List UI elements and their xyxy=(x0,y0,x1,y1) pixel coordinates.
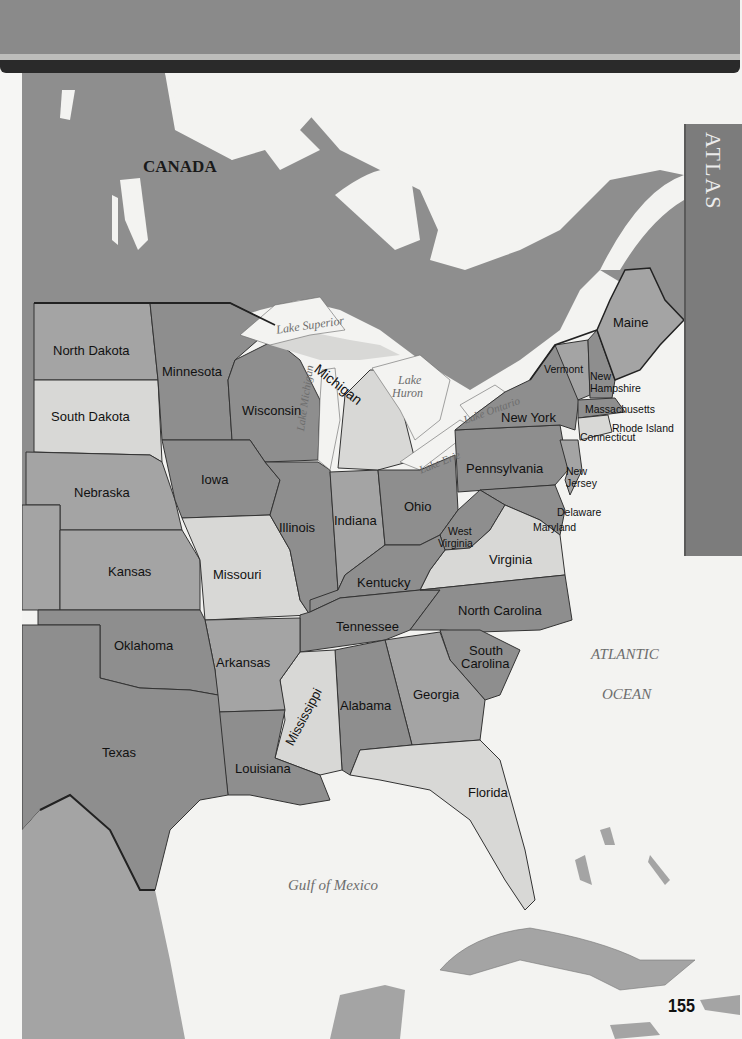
state-label-massachusetts: Massachusetts xyxy=(585,404,655,415)
eastern-us-map xyxy=(22,73,740,1039)
state-label-new-york: New York xyxy=(501,411,556,425)
state-label-west-virginia-line1: West xyxy=(448,526,472,537)
state-label-south-dakota: South Dakota xyxy=(51,410,130,424)
state-label-west-virginia-line2: Virginia xyxy=(438,538,473,549)
state-label-louisiana: Louisiana xyxy=(235,762,291,776)
state-label-florida: Florida xyxy=(468,786,508,800)
water-label-ocean: OCEAN xyxy=(602,686,651,703)
state-label-oklahoma: Oklahoma xyxy=(114,639,173,653)
state-label-kansas: Kansas xyxy=(108,565,151,579)
state-label-new-jersey-line2: Jersey xyxy=(566,478,597,489)
state-label-minnesota: Minnesota xyxy=(162,365,222,379)
state-label-new-hampshire-line2: Hampshire xyxy=(590,383,641,394)
page-header-band xyxy=(0,0,740,54)
state-label-indiana: Indiana xyxy=(334,514,377,528)
state-label-maryland: Maryland xyxy=(533,522,576,533)
state-label-missouri: Missouri xyxy=(213,568,261,582)
state-label-ohio: Ohio xyxy=(404,500,431,514)
state-label-kentucky: Kentucky xyxy=(357,576,410,590)
water-label-gulf-of-mexico: Gulf of Mexico xyxy=(288,877,378,894)
state-label-pennsylvania: Pennsylvania xyxy=(466,462,543,476)
page-margin xyxy=(0,73,22,1039)
state-label-north-carolina: North Carolina xyxy=(458,604,542,618)
state-label-vermont: Vermont xyxy=(544,364,583,375)
state-label-wisconsin: Wisconsin xyxy=(242,404,301,418)
state-label-new-hampshire-line1: New xyxy=(590,371,611,382)
state-label-connecticut: Connecticut xyxy=(580,432,635,443)
water-label-lake-huron-line2: Huron xyxy=(392,386,423,401)
state-label-georgia: Georgia xyxy=(413,688,459,702)
atlas-tab-label: ATLAS xyxy=(700,132,726,210)
state-label-texas: Texas xyxy=(102,746,136,760)
state-label-maine: Maine xyxy=(613,316,648,330)
header-divider-dark xyxy=(0,60,740,73)
state-label-iowa: Iowa xyxy=(201,473,228,487)
water-label-atlantic: ATLANTIC xyxy=(591,646,659,663)
state-label-arkansas: Arkansas xyxy=(216,656,270,670)
state-label-south-carolina-line2: Carolina xyxy=(461,657,509,671)
country-label-canada: CANADA xyxy=(143,157,217,177)
state-label-virginia: Virginia xyxy=(489,553,532,567)
state-label-new-jersey-line1: New xyxy=(566,466,587,477)
state-label-nebraska: Nebraska xyxy=(74,486,130,500)
state-label-delaware: Delaware xyxy=(557,507,601,518)
state-label-tennessee: Tennessee xyxy=(336,620,399,634)
state-label-illinois: Illinois xyxy=(279,521,315,535)
state-label-north-dakota: North Dakota xyxy=(53,344,130,358)
atlas-section-tab[interactable]: ATLAS xyxy=(684,124,742,556)
state-label-alabama: Alabama xyxy=(340,699,391,713)
page-number: 155 xyxy=(668,995,695,1017)
